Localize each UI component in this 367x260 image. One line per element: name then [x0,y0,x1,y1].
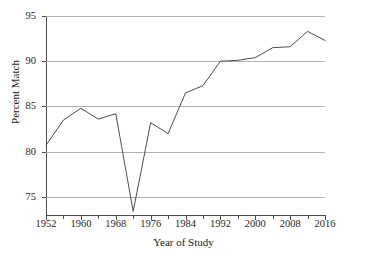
x-tick-label: 2016 [305,219,345,230]
y-axis-title: Percent Match [9,32,21,152]
x-tick-mark-minor [203,216,204,219]
y-tick-mark [42,16,46,17]
x-tick-mark-minor [98,216,99,219]
x-tick-mark-minor [168,216,169,219]
x-axis-title: Year of Study [0,236,367,248]
x-tick-mark-minor [133,216,134,219]
y-tick-label: 95 [14,11,36,22]
chart-figure: 7580859095 19521960196819761984199220002… [0,0,367,260]
x-tick-mark-minor [273,216,274,219]
y-tick-label: 75 [14,192,36,203]
gridline-y-85 [46,106,325,107]
x-tick-mark-minor [238,216,239,219]
x-tick-mark-minor [63,216,64,219]
gridline-y-95 [46,16,325,17]
y-tick-mark [42,61,46,62]
plot-area [46,16,325,215]
x-tick-mark-minor [308,216,309,219]
gridline-y-80 [46,152,325,153]
gridline-y-75 [46,197,325,198]
y-tick-mark [42,152,46,153]
y-tick-mark [42,106,46,107]
gridline-y-90 [46,61,325,62]
y-tick-mark [42,197,46,198]
